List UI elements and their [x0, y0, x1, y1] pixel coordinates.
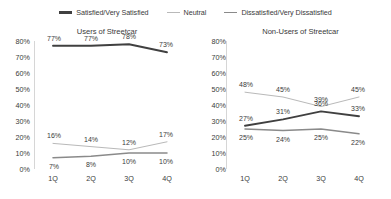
x-axis-tick: 2Q [278, 174, 288, 183]
y-axis-tick: 50% [196, 85, 226, 94]
data-label: 27% [239, 114, 253, 121]
legend-item: Neutral [167, 8, 207, 17]
legend-label: Neutral [184, 8, 207, 17]
chart-title-non-users: Non-Users of Streetcar [196, 27, 391, 36]
chart-legend: Satisfied/Very SatisfiedNeutralDissatisf… [0, 8, 391, 17]
data-label: 10% [159, 158, 173, 165]
x-axis-tick: 2Q [86, 174, 96, 183]
y-axis-tick: 40% [0, 101, 30, 110]
data-label: 12% [122, 138, 136, 145]
data-label: 10% [122, 158, 136, 165]
data-label: 8% [86, 161, 96, 168]
data-label: 33% [351, 105, 365, 112]
x-axis-tick: 4Q [162, 174, 172, 183]
y-axis-users: 0%10%20%30%40%50%60%70%80% [0, 41, 30, 169]
chart-panel-non-users: Non-Users of Streetcar 0%10%20%30%40%50%… [196, 24, 391, 199]
data-label: 31% [276, 108, 290, 115]
data-label: 78% [122, 33, 136, 40]
line-swatch-satisfied [59, 11, 72, 14]
legend-label: Dissatisfied/Very Dissatisfied [241, 8, 331, 17]
y-axis-tick: 10% [0, 149, 30, 158]
line-swatch-neutral [167, 12, 180, 13]
data-label: 48% [239, 81, 253, 88]
series-line [53, 142, 167, 150]
y-axis-non-users: 0%10%20%30%40%50%60%70%80% [196, 41, 226, 169]
chart-page: Satisfied/Very SatisfiedNeutralDissatisf… [0, 0, 391, 199]
chart-panel-users: Users of Streetcar 0%10%20%30%40%50%60%7… [0, 24, 196, 199]
y-axis-tick: 0% [196, 165, 226, 174]
plot-area-users: 77%77%78%73%16%14%12%17%7%8%10%10% [34, 41, 186, 169]
series-line [245, 92, 359, 106]
y-axis-tick: 60% [0, 69, 30, 78]
y-axis-tick: 10% [196, 149, 226, 158]
data-label: 39% [314, 95, 328, 102]
data-label: 24% [276, 135, 290, 142]
series-line [245, 111, 359, 125]
y-axis-tick: 70% [196, 53, 226, 62]
x-axis-tick: 1Q [240, 174, 250, 183]
y-axis-tick: 30% [0, 117, 30, 126]
y-axis-tick: 80% [0, 37, 30, 46]
series-line [53, 153, 167, 158]
x-axis-tick: 4Q [354, 174, 364, 183]
data-label: 73% [159, 41, 173, 48]
x-axis-tick: 1Q [48, 174, 58, 183]
data-label: 77% [47, 34, 61, 41]
data-label: 7% [49, 162, 59, 169]
data-label: 77% [84, 34, 98, 41]
data-label: 16% [47, 132, 61, 139]
y-axis-tick: 40% [196, 101, 226, 110]
plot-area-non-users: 27%31%36%33%48%45%39%45%25%24%25%22% [226, 41, 378, 169]
data-label: 14% [84, 135, 98, 142]
data-label: 22% [351, 138, 365, 145]
x-axis-non-users: 1Q2Q3Q4Q [226, 174, 378, 188]
y-axis-tick: 70% [0, 53, 30, 62]
x-axis-users: 1Q2Q3Q4Q [34, 174, 186, 188]
legend-item: Dissatisfied/Very Dissatisfied [224, 8, 331, 17]
series-line [245, 129, 359, 134]
series-line [53, 44, 167, 52]
data-label: 25% [239, 134, 253, 141]
series-lines [34, 41, 186, 169]
y-axis-tick: 20% [0, 133, 30, 142]
data-label: 45% [276, 86, 290, 93]
data-label: 17% [159, 130, 173, 137]
y-axis-tick: 80% [196, 37, 226, 46]
y-axis-tick: 30% [196, 117, 226, 126]
legend-label: Satisfied/Very Satisfied [76, 8, 148, 17]
data-label: 45% [351, 86, 365, 93]
y-axis-tick: 50% [0, 85, 30, 94]
y-axis-tick: 60% [196, 69, 226, 78]
y-axis-tick: 0% [0, 165, 30, 174]
line-swatch-dissatisfied [224, 12, 237, 14]
x-axis-tick: 3Q [124, 174, 134, 183]
legend-item: Satisfied/Very Satisfied [59, 8, 148, 17]
y-axis-tick: 20% [196, 133, 226, 142]
data-label: 25% [314, 134, 328, 141]
x-axis-tick: 3Q [316, 174, 326, 183]
